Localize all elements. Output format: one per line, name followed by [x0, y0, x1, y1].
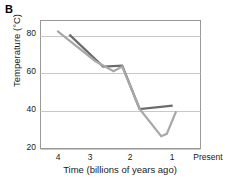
chart-figure: B Temperature (°C) Time (billions of yea… [0, 0, 231, 182]
plot-frame [41, 21, 201, 149]
plot-canvas [0, 0, 231, 182]
